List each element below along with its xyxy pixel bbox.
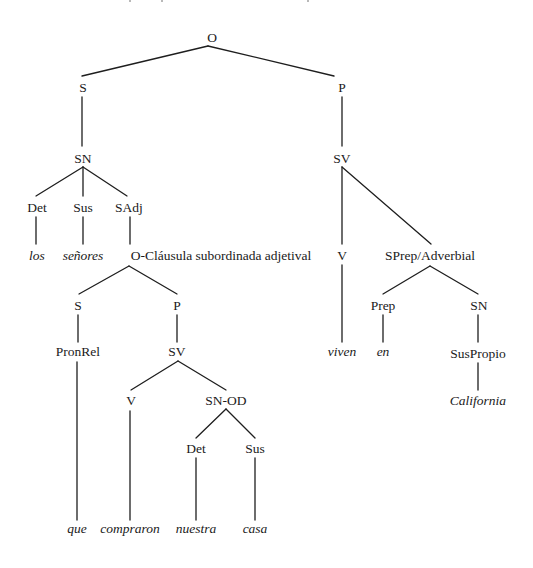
tree-edge (226, 409, 255, 438)
tree-edge (208, 46, 334, 76)
tree-edge (129, 266, 177, 294)
node-label-s1: S (79, 80, 87, 95)
syntax-tree-diagram: OSPSNSVDetSusSAdjlosseñoresO-Cláusula su… (0, 0, 533, 568)
leaf-word-viven: viven (328, 344, 357, 359)
node-label-s2: S (74, 298, 82, 313)
leaf-word-senores: señores (63, 248, 104, 263)
leaf-word-casa: casa (243, 521, 268, 536)
node-label-p1: P (338, 80, 346, 95)
tree-edge (430, 266, 478, 294)
node-label-v2: V (126, 393, 136, 408)
node-label-det2: Det (186, 441, 206, 456)
node-label-sv1: SV (333, 151, 351, 166)
tree-edge (83, 167, 127, 196)
node-label-oclaus: O-Cláusula subordinada adjetival (131, 248, 312, 263)
leaf-word-compraron: compraron (100, 521, 160, 536)
tree-edge (82, 46, 208, 76)
leaf-word-en: en (377, 344, 390, 359)
leaf-word-california: California (450, 393, 507, 408)
tree-edge (131, 361, 178, 390)
node-label-o: O (207, 30, 217, 45)
node-label-prep: Prep (371, 298, 396, 313)
node-label-suspropio: SusPropio (450, 346, 506, 361)
leaf-word-nuestra: nuestra (176, 521, 217, 536)
tree-edge (383, 266, 430, 294)
node-label-snod: SN-OD (205, 393, 247, 408)
node-label-sadj: SAdj (115, 200, 143, 215)
node-label-pronrel: PronRel (56, 344, 101, 359)
tree-edge (36, 167, 83, 196)
node-label-det1: Det (27, 200, 47, 215)
node-label-p2: P (173, 298, 181, 313)
node-label-v1: V (337, 248, 347, 263)
node-label-sn2: SN (470, 298, 488, 313)
node-label-sprep: SPrep/Adverbial (385, 248, 475, 263)
node-label-sv2: SV (168, 344, 186, 359)
leaf-word-que: que (67, 521, 87, 536)
tree-edge (342, 167, 431, 244)
leaf-word-los: los (29, 248, 45, 263)
node-label-sus2: Sus (245, 441, 265, 456)
tree-edge (79, 266, 129, 294)
node-label-sus1: Sus (73, 200, 93, 215)
top-cropped-text-specks (129, 0, 309, 2)
tree-edge (178, 361, 226, 390)
tree-edge (196, 409, 226, 438)
node-label-sn1: SN (74, 151, 92, 166)
